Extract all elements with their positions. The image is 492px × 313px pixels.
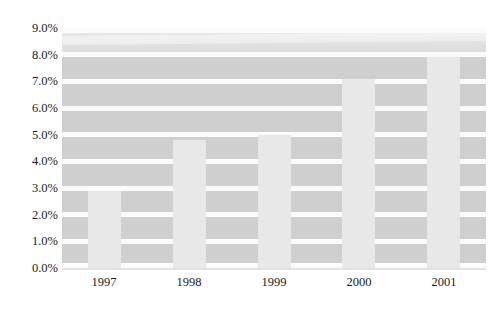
bar-chart: 0.0%1.0%2.0%3.0%4.0%5.0%6.0%7.0%8.0%9.0%…	[0, 0, 492, 313]
x-tick-label-2000: 2000	[314, 276, 404, 289]
y-tick-label: 6.0%	[2, 102, 58, 115]
bar-1999	[258, 135, 291, 268]
plot-area	[62, 28, 486, 268]
y-tick-label: 0.0%	[2, 262, 58, 275]
y-tick-label: 2.0%	[2, 208, 58, 221]
gridline	[62, 52, 486, 57]
y-tick-label: 8.0%	[2, 48, 58, 61]
y-tick-label: 9.0%	[2, 22, 58, 35]
gridline	[62, 28, 486, 33]
bar-2000	[342, 79, 375, 268]
x-tick-label-1997: 1997	[59, 276, 149, 289]
x-axis-baseline	[62, 268, 486, 270]
bar-1997	[88, 191, 121, 268]
y-axis: 0.0%1.0%2.0%3.0%4.0%5.0%6.0%7.0%8.0%9.0%	[0, 0, 58, 313]
bar-2001	[427, 57, 460, 268]
x-tick-label-1998: 1998	[144, 276, 234, 289]
y-tick-label: 1.0%	[2, 235, 58, 248]
gridline	[62, 79, 486, 84]
x-tick-label-1999: 1999	[229, 276, 319, 289]
y-tick-label: 7.0%	[2, 75, 58, 88]
y-tick-label: 3.0%	[2, 182, 58, 195]
x-tick-label-2001: 2001	[399, 276, 489, 289]
gridline	[62, 106, 486, 111]
y-tick-label: 4.0%	[2, 155, 58, 168]
y-tick-label: 5.0%	[2, 128, 58, 141]
bar-1998	[173, 140, 206, 268]
